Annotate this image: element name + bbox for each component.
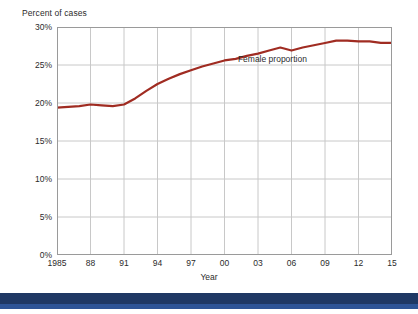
y-axis-tick: 30% [35,22,52,32]
y-axis-tick: 5% [40,212,52,222]
footer-band-dark [0,293,418,304]
series-annotation-label: Female proportion [238,54,307,64]
x-axis-tick: 03 [253,258,262,268]
x-axis-tick: 15 [387,258,396,268]
chart-svg [57,27,392,255]
y-axis-tick: 20% [35,98,52,108]
x-axis-tick: 94 [153,258,162,268]
x-axis-title: Year [0,272,418,282]
y-axis-tick: 10% [35,174,52,184]
plot-area [57,27,392,255]
y-axis-tick: 25% [35,60,52,70]
chart-container: Percent of cases 0%5%10%15%20%25%30% 198… [0,0,418,290]
x-axis-tick: 88 [86,258,95,268]
footer-band-light [0,304,418,309]
x-axis-tick: 09 [320,258,329,268]
x-axis-tick-labels: 198588919497000306091215 [57,258,392,272]
y-axis-tick-labels: 0%5%10%15%20%25%30% [0,27,52,255]
x-axis-tick: 06 [287,258,296,268]
y-axis-title: Percent of cases [22,8,87,18]
y-axis-tick: 15% [35,136,52,146]
x-axis-tick: 1985 [48,258,67,268]
footer-bar [0,290,418,314]
x-axis-tick: 12 [354,258,363,268]
x-axis-tick: 00 [220,258,229,268]
x-axis-tick: 97 [186,258,195,268]
x-axis-tick: 91 [119,258,128,268]
